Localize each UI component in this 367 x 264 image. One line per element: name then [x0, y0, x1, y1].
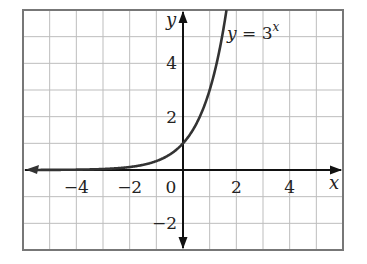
- equation-label: y = 3x: [226, 20, 280, 43]
- equation-base: 3: [262, 23, 273, 43]
- y-tick-label: 2: [166, 107, 177, 127]
- x-tick-label: 2: [231, 177, 242, 197]
- equation-lhs: y: [226, 23, 237, 43]
- y-tick-label: 4: [166, 53, 177, 73]
- x-tick-label: −4: [64, 177, 89, 197]
- y-axis-label: y: [165, 9, 177, 30]
- exponential-graph: −4−202442−2 x y y = 3x: [0, 0, 367, 264]
- x-tick-label: −2: [117, 177, 142, 197]
- x-tick-label: 0: [166, 177, 177, 197]
- axes: [25, 11, 342, 249]
- x-axis-label: x: [329, 172, 339, 193]
- x-tick-label: 4: [284, 177, 295, 197]
- equation-exponent: x: [273, 20, 280, 34]
- y-tick-label: −2: [152, 213, 177, 233]
- equation-op: =: [237, 23, 262, 43]
